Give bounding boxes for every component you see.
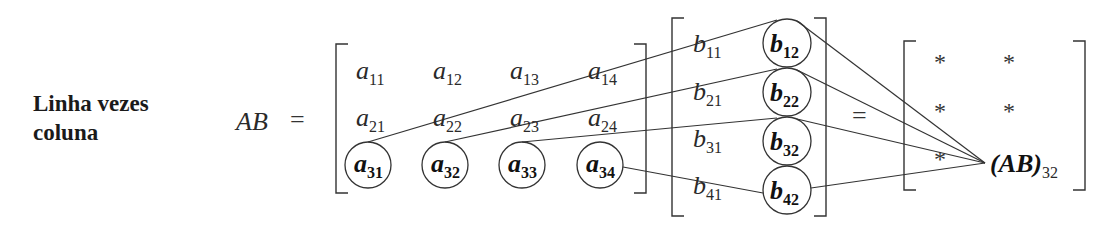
- connector-lines: [368, 20, 985, 193]
- lhs-label: AB: [234, 107, 268, 136]
- equals-sign-2: =: [852, 101, 867, 130]
- entry-b42: b42: [770, 176, 799, 208]
- entry-a33: a33: [508, 149, 537, 181]
- entry-a23: a23: [510, 103, 539, 135]
- entry-a14: a14: [588, 56, 617, 88]
- entry-b11: b11: [693, 29, 721, 61]
- result-star-12: *: [1003, 49, 1015, 75]
- entry-b32: b32: [770, 127, 799, 159]
- entry-b41: b41: [693, 171, 722, 203]
- entry-a22: a22: [433, 103, 462, 135]
- entry-a13: a13: [510, 56, 539, 88]
- entry-a31: a31: [354, 149, 383, 181]
- result-star-22: *: [1003, 98, 1015, 124]
- entry-a32: a32: [431, 149, 460, 181]
- connector-a-to-b-3: [522, 118, 777, 142]
- matrix-b: b11b12b21b22b31b32b41b42: [693, 19, 811, 214]
- matrix-a: a11a12a13a14a21a22a23a24a31a32a33a34: [345, 56, 623, 188]
- result-star-11: *: [934, 49, 946, 75]
- result-right-bracket: [1073, 41, 1085, 190]
- row-times-column-diagram: Linha vezes coluna AB = = a11a12a13a14a2…: [0, 0, 1120, 228]
- entry-b12: b12: [770, 29, 799, 61]
- result-star-31: *: [934, 146, 946, 172]
- entry-a34: a34: [586, 149, 615, 181]
- equals-sign: =: [290, 105, 305, 134]
- entry-b31: b31: [693, 124, 722, 156]
- result-star-21: *: [934, 98, 946, 124]
- result-entry-ab32: (AB)32: [990, 149, 1058, 181]
- result-left-bracket: [904, 41, 916, 190]
- title-line-1: Linha vezes: [33, 91, 149, 116]
- connector-b-to-result-1: [797, 21, 985, 163]
- connector-b-to-result-4: [811, 163, 985, 188]
- entry-a11: a11: [356, 56, 384, 88]
- entry-b22: b22: [770, 78, 799, 110]
- entry-a21: a21: [356, 103, 385, 135]
- title-line-2: coluna: [33, 120, 99, 145]
- entry-a12: a12: [433, 56, 462, 88]
- connector-b-to-result-2: [797, 70, 985, 163]
- result-matrix: *****(AB)32: [934, 49, 1058, 181]
